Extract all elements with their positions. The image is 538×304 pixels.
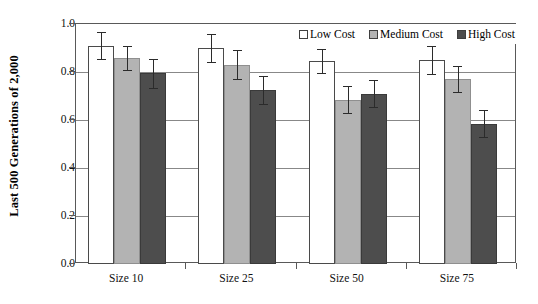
y-axis-title: Last 500 Generations of 2,000	[3, 4, 25, 268]
error-bar-cap-lower	[343, 113, 352, 114]
bar-size-25-medium-cost	[224, 65, 250, 264]
bar-size-10-medium-cost	[114, 58, 140, 264]
caption-sliver	[0, 292, 538, 304]
bar-size-50-high-cost	[361, 94, 387, 264]
error-bar-stem	[374, 80, 375, 106]
x-tick-mark	[185, 263, 186, 269]
error-bar-cap-lower	[453, 92, 462, 93]
error-bar-cap-upper	[453, 66, 462, 67]
x-tick-label-size-10: Size 10	[109, 272, 143, 284]
legend-label: Medium Cost	[380, 28, 443, 40]
error-bar-stem	[263, 76, 264, 105]
legend-item-medium-cost: Medium Cost	[369, 28, 443, 40]
bar-size-10-high-cost	[140, 73, 166, 264]
error-bar-cap-upper	[97, 32, 106, 33]
error-bar-cap-lower	[369, 107, 378, 108]
error-bar-stem	[322, 49, 323, 73]
bar-size-25-high-cost	[250, 90, 276, 264]
error-bar-cap-upper	[149, 59, 158, 60]
error-bar-cap-upper	[479, 110, 488, 111]
error-bar-cap-lower	[123, 70, 132, 71]
error-bar-cap-upper	[233, 50, 242, 51]
legend-swatch-icon	[369, 30, 378, 39]
error-bar-stem	[432, 46, 433, 75]
error-bar-cap-upper	[369, 80, 378, 81]
error-bar-cap-upper	[123, 46, 132, 47]
error-bar-cap-upper	[259, 76, 268, 77]
error-bar-stem	[153, 59, 154, 88]
error-bar-cap-lower	[97, 59, 106, 60]
error-bar-cap-upper	[317, 49, 326, 50]
legend-label: Low Cost	[310, 28, 355, 40]
error-bar-stem	[237, 50, 238, 79]
error-bar-cap-upper	[207, 34, 216, 35]
error-bar-cap-lower	[233, 79, 242, 80]
error-bar-stem	[458, 66, 459, 92]
bar-size-75-high-cost	[471, 124, 497, 264]
error-bar-cap-upper	[427, 46, 436, 47]
legend-swatch-icon	[299, 30, 308, 39]
error-bar-stem	[348, 86, 349, 112]
legend-swatch-icon	[457, 30, 466, 39]
plot-area	[75, 23, 516, 263]
x-tick-mark	[406, 263, 407, 269]
x-tick-mark	[296, 263, 297, 269]
chart-legend: Low CostMedium CostHigh Cost	[296, 24, 518, 44]
bar-size-75-medium-cost	[445, 79, 471, 264]
bar-size-25-low-cost	[198, 48, 224, 264]
error-bar-cap-lower	[207, 62, 216, 63]
y-axis-ticks: 0.00.20.40.60.81.0	[30, 0, 75, 304]
bar-size-10-low-cost	[88, 46, 114, 264]
legend-item-low-cost: Low Cost	[299, 28, 355, 40]
error-bar-cap-upper	[343, 86, 352, 87]
y-tick-mark	[69, 263, 75, 264]
error-bar-cap-lower	[427, 74, 436, 75]
error-bar-cap-lower	[259, 104, 268, 105]
error-bar-cap-lower	[317, 73, 326, 74]
error-bar-stem	[211, 34, 212, 63]
error-bar-cap-lower	[479, 137, 488, 138]
x-tick-label-size-75: Size 75	[440, 272, 474, 284]
legend-label: High Cost	[468, 28, 515, 40]
error-bar-stem	[101, 32, 102, 58]
x-tick-label-size-50: Size 50	[330, 272, 364, 284]
x-tick-label-size-25: Size 25	[219, 272, 253, 284]
bar-size-75-low-cost	[419, 60, 445, 264]
error-bar-stem	[484, 110, 485, 136]
x-tick-mark	[516, 263, 517, 269]
bar-chart: Last 500 Generations of 2,000 0.00.20.40…	[0, 0, 538, 304]
error-bar-cap-lower	[149, 88, 158, 89]
legend-item-high-cost: High Cost	[457, 28, 515, 40]
bar-size-50-low-cost	[309, 61, 335, 264]
bar-size-50-medium-cost	[335, 100, 361, 264]
error-bar-stem	[127, 46, 128, 70]
